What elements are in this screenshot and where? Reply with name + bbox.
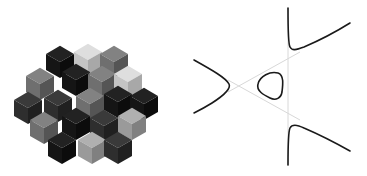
cubic-curve-plot	[180, 0, 367, 176]
cube-assembly-image	[0, 0, 180, 176]
cube-assembly-panel	[0, 0, 180, 176]
cubic-curve-panel	[180, 0, 367, 176]
curve-top-right-branch	[288, 8, 350, 50]
curve-oval	[258, 73, 283, 100]
asymptote-lines	[228, 8, 300, 166]
asymptote-lower-diagonal	[228, 80, 300, 120]
curve-components	[194, 8, 350, 165]
curve-left-branch	[194, 60, 229, 113]
curve-bottom-right-branch	[288, 125, 350, 165]
